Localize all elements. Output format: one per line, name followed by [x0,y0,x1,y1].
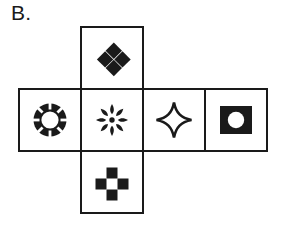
square-with-circle-icon [220,106,252,134]
cross-square-left [96,179,107,190]
cube-net-diagram [0,0,281,226]
asterisk-center-dot [109,117,114,122]
sunburst-ring-icon [32,102,69,139]
cube-net-svg [0,0,281,226]
cross-square-bottom [107,190,118,201]
notch-2 [61,119,69,122]
inner-white-circle [228,112,244,128]
face-top-outline [81,27,143,89]
notch-4 [49,131,52,139]
notch-6 [32,119,40,122]
cross-square-top [107,168,118,179]
notch-0 [49,102,52,110]
figure-b-cube-net: B. [0,0,281,226]
ring-inner-circle [41,111,58,128]
face-bottom-outline [81,151,143,213]
petal-asterisk-icon [96,104,128,136]
cross-square-right [118,179,129,190]
